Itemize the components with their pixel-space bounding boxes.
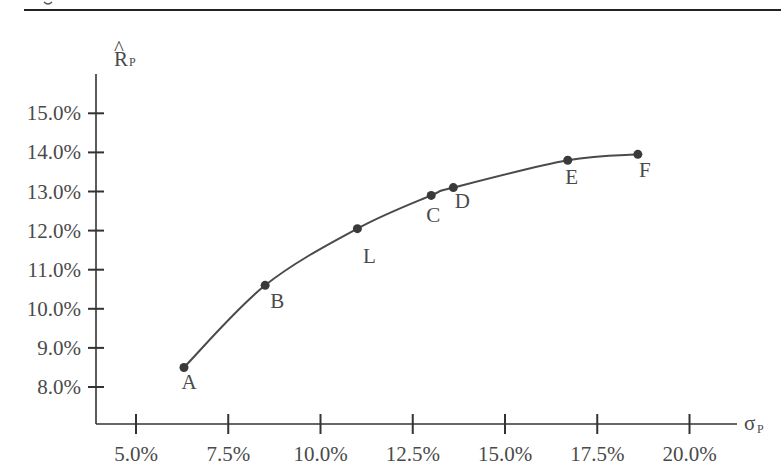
point-label: F — [639, 158, 651, 182]
y-tick-label: 11.0% — [28, 258, 81, 282]
point-label: C — [426, 203, 440, 227]
point-marker — [353, 224, 362, 233]
x-tick-label: 7.5% — [206, 442, 250, 466]
y-tick-label: 15.0% — [27, 101, 81, 125]
clipped-caption-fragment — [44, 2, 52, 4]
efficient-frontier-chart: 8.0%9.0%10.0%11.0%12.0%13.0%14.0%15.0% 5… — [0, 0, 781, 472]
x-tick-label: 5.0% — [114, 442, 158, 466]
data-point-b: B — [261, 281, 285, 314]
data-point-e: E — [563, 156, 578, 190]
x-axis-label: σ P — [744, 411, 764, 436]
y-axis-label: ^ R P — [114, 36, 136, 71]
point-marker — [261, 281, 270, 290]
x-axis-label-subscript: P — [757, 422, 764, 436]
point-label: E — [565, 165, 578, 189]
y-tick-label: 14.0% — [27, 140, 81, 164]
data-points: ABLCDEF — [179, 150, 650, 395]
data-point-c: C — [426, 191, 440, 228]
x-tick-label: 10.0% — [293, 442, 347, 466]
point-label: D — [455, 189, 470, 213]
y-tick-label: 9.0% — [37, 336, 81, 360]
y-tick-label: 12.0% — [27, 219, 81, 243]
x-tick-label: 17.5% — [570, 442, 624, 466]
x-tick-label: 15.0% — [478, 442, 532, 466]
x-tick-label: 20.0% — [662, 442, 716, 466]
x-axis-ticks: 5.0%7.5%10.0%12.5%15.0%17.5%20.0% — [114, 414, 717, 466]
point-marker — [563, 156, 572, 165]
point-marker — [427, 191, 436, 200]
y-tick-label: 8.0% — [37, 375, 81, 399]
y-tick-label: 10.0% — [27, 297, 81, 321]
point-label: L — [363, 244, 376, 268]
x-tick-label: 12.5% — [386, 442, 440, 466]
y-axis-label-main: R — [114, 47, 128, 71]
figure: 8.0%9.0%10.0%11.0%12.0%13.0%14.0%15.0% 5… — [0, 0, 781, 472]
y-axis-label-subscript: P — [129, 55, 136, 69]
x-axis-label-main: σ — [744, 411, 755, 435]
point-label: B — [270, 289, 284, 313]
data-point-d: D — [449, 183, 470, 213]
y-axis-ticks: 8.0%9.0%10.0%11.0%12.0%13.0%14.0%15.0% — [27, 101, 104, 399]
data-point-a: A — [179, 363, 197, 395]
data-point-l: L — [353, 224, 376, 267]
data-point-f: F — [633, 150, 650, 183]
point-label: A — [181, 370, 197, 394]
y-tick-label: 13.0% — [27, 180, 81, 204]
